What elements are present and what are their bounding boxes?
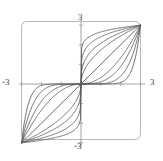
axis-label-right: 3 [150,78,155,87]
axis-label-left: -3 [2,78,10,87]
axis-label-bottom: -3 [74,142,82,151]
axis-label-top: 3 [78,13,83,22]
chart-figure: 3 -3 -3 3 [0,0,163,161]
plot-canvas [0,0,163,161]
